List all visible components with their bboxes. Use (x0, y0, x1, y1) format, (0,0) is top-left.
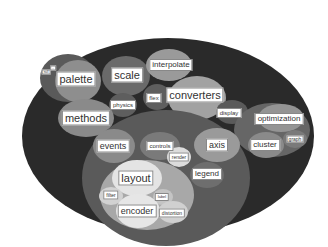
cluster-label: cluster (250, 139, 280, 151)
scale-label: scale (111, 68, 143, 83)
controls-label: controls (146, 141, 173, 151)
flex-label: flex (146, 93, 161, 103)
palette-label: palette (56, 72, 95, 87)
render-label: render (169, 153, 189, 162)
null-label: null (42, 70, 51, 75)
distortion-label: distortion (159, 209, 185, 218)
converters-label: converters (166, 88, 223, 103)
physics-label: physics (110, 100, 136, 110)
filter-label: filter (103, 191, 118, 200)
encoder-label: encoder (118, 205, 157, 218)
legend-label: legend (192, 168, 222, 180)
label-label: label (155, 193, 169, 201)
methods-label: methods (62, 111, 110, 126)
events-label: events (97, 140, 130, 153)
display-label: display (217, 108, 242, 118)
interpolate-label: interpolate (149, 59, 192, 71)
graph-label: graph (287, 136, 304, 143)
dots-label: .. (50, 66, 56, 71)
optimization-label: optimization (255, 113, 304, 125)
layout-label: layout (118, 171, 153, 186)
axis-label: axis (206, 139, 228, 152)
